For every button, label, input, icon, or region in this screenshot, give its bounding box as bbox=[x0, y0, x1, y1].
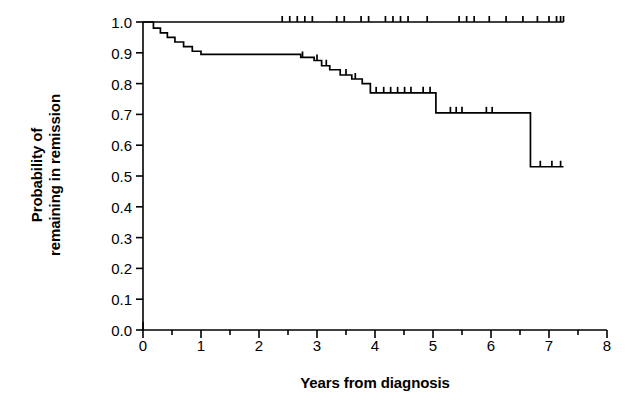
kaplan-meier-chart: Probability of remaining in remission 1.… bbox=[0, 0, 625, 414]
curve-lower-curve bbox=[143, 22, 564, 167]
axes-group bbox=[136, 22, 607, 338]
plot-area bbox=[0, 0, 625, 414]
data-series-group bbox=[143, 16, 564, 167]
y-tick-marks bbox=[136, 22, 143, 330]
